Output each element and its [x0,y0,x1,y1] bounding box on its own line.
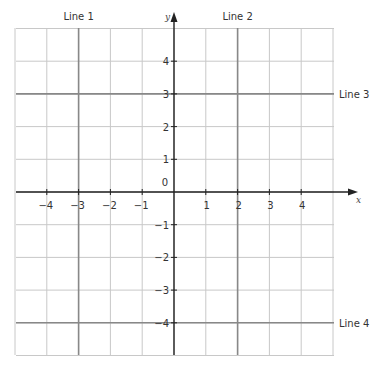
x-tick-label: 1 [204,200,210,211]
line-2-label: Line 2 [222,11,252,22]
coordinate-grid: Line 1Line 2Line 3Line 4xy0−4−3−2−112344… [0,0,378,369]
x-tick-label: 2 [235,200,241,211]
origin-label: 0 [162,177,168,188]
x-tick-label: 3 [267,200,273,211]
y-tick-label: 4 [163,56,169,67]
line-4-label: Line 4 [339,318,369,329]
x-tick-label: −2 [102,200,117,211]
x-axis-label: x [356,195,361,205]
y-axis-label: y [164,12,171,22]
y-tick-label: 1 [163,154,169,165]
y-axis-arrow-icon [171,12,178,22]
x-tick-label: 4 [299,200,305,211]
line-3-label: Line 3 [339,89,369,100]
x-tick-label: −3 [70,200,85,211]
y-tick-label: −3 [154,285,169,296]
y-tick-label: −1 [154,220,169,231]
y-tick-label: 3 [163,89,169,100]
y-tick-label: 2 [163,122,169,133]
y-tick-label: −4 [154,318,169,329]
y-tick-label: −2 [154,252,169,263]
line-1-label: Line 1 [63,11,93,22]
x-tick-label: −4 [38,200,53,211]
x-tick-label: −1 [134,200,149,211]
